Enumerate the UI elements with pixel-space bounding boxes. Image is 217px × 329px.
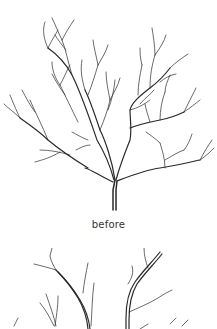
after-tree-figure — [0, 248, 217, 329]
before-tree-figure — [0, 0, 217, 215]
tree-illustration-partial — [0, 248, 217, 329]
tree-illustration — [0, 0, 217, 215]
figure-caption-before: before — [0, 219, 217, 230]
